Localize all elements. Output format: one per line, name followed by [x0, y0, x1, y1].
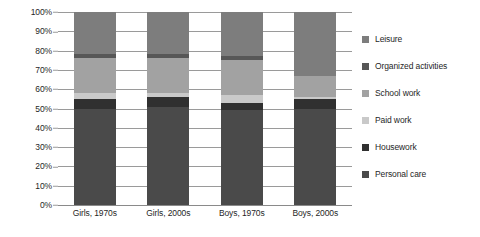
legend-item-leisure[interactable]: Leisure	[362, 26, 478, 53]
bar-segment-paid-work[interactable]	[294, 97, 336, 99]
bar-segment-housework[interactable]	[147, 97, 189, 107]
y-axis: 0%10%20%30%40%50%60%70%80%90%100%	[0, 12, 52, 205]
y-axis-tick-label: 50%	[35, 104, 52, 113]
x-axis: Girls, 1970sGirls, 2000sBoys, 1970sBoys,…	[58, 207, 352, 229]
bar-segment-leisure[interactable]	[294, 12, 336, 76]
bar-segment-personal-care[interactable]	[147, 107, 189, 205]
legend-item-paid-work[interactable]: Paid work	[362, 107, 478, 134]
stacked-bar-chart: 0%10%20%30%40%50%60%70%80%90%100% Girls,…	[0, 0, 480, 237]
bar-segment-personal-care[interactable]	[74, 109, 116, 206]
x-axis-tick-label: Boys, 2000s	[279, 209, 353, 218]
bar-segment-paid-work[interactable]	[221, 95, 263, 103]
bar-segment-housework[interactable]	[294, 99, 336, 109]
legend: LeisureOrganized activitiesSchool workPa…	[362, 26, 478, 188]
y-axis-tick-label: 30%	[35, 143, 52, 152]
x-axis-tick-label: Girls, 1970s	[58, 209, 132, 218]
bar-segment-leisure[interactable]	[147, 12, 189, 54]
legend-item-label: Leisure	[375, 35, 402, 44]
bar-segment-school-work[interactable]	[147, 58, 189, 93]
y-axis-tick-label: 60%	[35, 85, 52, 94]
bar-segment-organized-activities[interactable]	[221, 56, 263, 60]
y-axis-tick-label: 90%	[35, 27, 52, 36]
y-axis-tick-label: 10%	[35, 181, 52, 190]
bar-boys-1970s[interactable]	[221, 12, 263, 205]
legend-item-label: Housework	[375, 143, 417, 152]
legend-item-label: Paid work	[375, 116, 411, 125]
legend-swatch-icon	[362, 117, 369, 124]
legend-item-label: School work	[375, 89, 420, 98]
bars-group	[58, 12, 352, 205]
y-axis-tick-label: 0%	[40, 201, 52, 210]
legend-item-label: Personal care	[375, 170, 426, 179]
bar-segment-personal-care[interactable]	[221, 110, 263, 205]
legend-swatch-icon	[362, 171, 369, 178]
bar-boys-2000s[interactable]	[294, 12, 336, 205]
bar-segment-personal-care[interactable]	[294, 109, 336, 206]
legend-item-school-work[interactable]: School work	[362, 80, 478, 107]
plot-area	[58, 12, 352, 205]
legend-item-label: Organized activities	[375, 62, 447, 71]
legend-swatch-icon	[362, 63, 369, 70]
bar-segment-organized-activities[interactable]	[147, 54, 189, 58]
legend-item-housework[interactable]: Housework	[362, 134, 478, 161]
bar-segment-school-work[interactable]	[221, 60, 263, 95]
legend-swatch-icon	[362, 36, 369, 43]
bar-segment-paid-work[interactable]	[147, 93, 189, 97]
bar-segment-leisure[interactable]	[74, 12, 116, 54]
y-axis-tick-label: 20%	[35, 162, 52, 171]
y-axis-tick-label: 70%	[35, 66, 52, 75]
legend-swatch-icon	[362, 144, 369, 151]
gridline	[58, 205, 352, 206]
x-axis-tick-label: Boys, 1970s	[205, 209, 279, 218]
legend-item-organized-activities[interactable]: Organized activities	[362, 53, 478, 80]
x-axis-tick-label: Girls, 2000s	[132, 209, 206, 218]
y-axis-tick-label: 100%	[31, 8, 52, 17]
bar-segment-school-work[interactable]	[74, 58, 116, 93]
bar-segment-paid-work[interactable]	[74, 93, 116, 99]
bar-segment-leisure[interactable]	[221, 12, 263, 56]
legend-item-personal-care[interactable]: Personal care	[362, 161, 478, 188]
bar-segment-organized-activities[interactable]	[74, 54, 116, 58]
bar-girls-1970s[interactable]	[74, 12, 116, 205]
bar-segment-housework[interactable]	[221, 103, 263, 111]
bar-segment-housework[interactable]	[74, 99, 116, 109]
y-axis-tick-label: 80%	[35, 46, 52, 55]
bar-segment-school-work[interactable]	[294, 76, 336, 97]
y-axis-tick-label: 40%	[35, 124, 52, 133]
legend-swatch-icon	[362, 90, 369, 97]
bar-girls-2000s[interactable]	[147, 12, 189, 205]
